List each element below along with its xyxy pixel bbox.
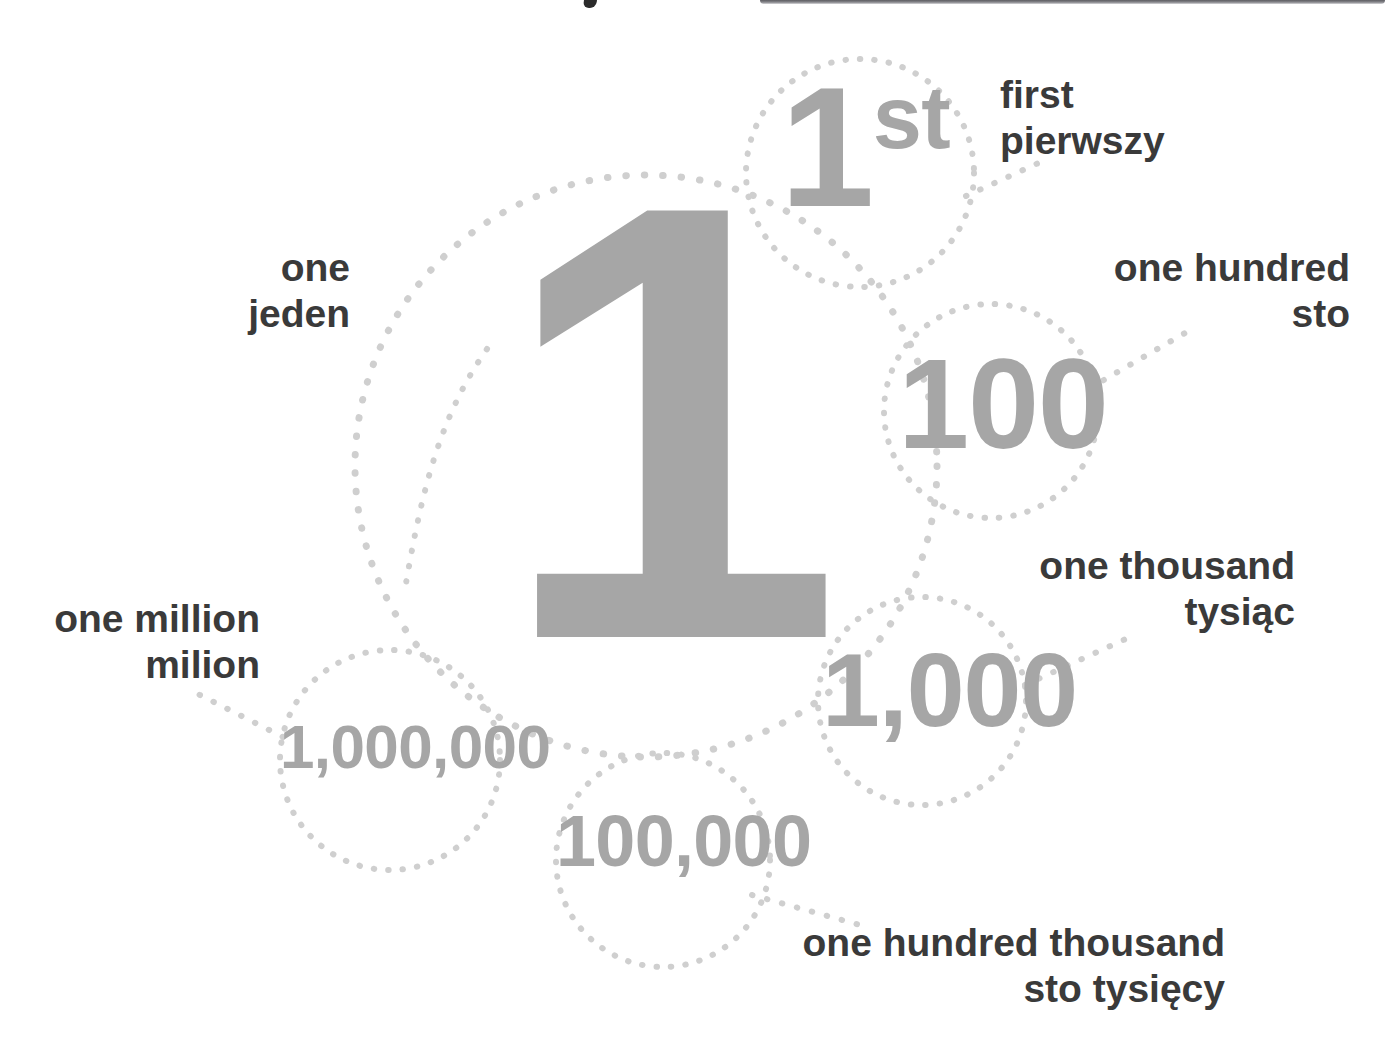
numeral-one-thousand: 1,000 bbox=[822, 638, 1022, 742]
numeral-one-hundred-thousand: 100,000 bbox=[556, 805, 774, 877]
numeral-one-million: 1,000,000 bbox=[280, 716, 502, 778]
cropped-title-descender bbox=[583, 0, 598, 8]
numeral-one-hundred: 100 bbox=[898, 340, 1088, 468]
label-one-hundred-thousand: one hundred thousand sto tysięcy bbox=[700, 920, 1225, 1012]
numeral-one: 1 bbox=[498, 112, 758, 732]
numeral-first-suffix: st bbox=[873, 68, 950, 167]
label-one: one jeden bbox=[120, 245, 350, 337]
label-one-thousand: one thousand tysiąc bbox=[960, 543, 1295, 635]
infographic-page: 1 1st 100 1,000 100,000 1,000,000 one je… bbox=[0, 0, 1385, 1052]
leader-line-one bbox=[404, 349, 487, 595]
label-one-hundred: one hundred sto bbox=[1010, 245, 1350, 337]
leader-line-one-million bbox=[196, 693, 283, 737]
label-first: first pierwszy bbox=[1000, 72, 1300, 164]
numeral-first-digit: 1 bbox=[780, 52, 873, 242]
label-one-million: one million milion bbox=[20, 596, 260, 688]
cropped-header-rule bbox=[760, 0, 1385, 4]
numeral-first: 1st bbox=[780, 62, 950, 232]
leader-line-first bbox=[966, 160, 1045, 196]
